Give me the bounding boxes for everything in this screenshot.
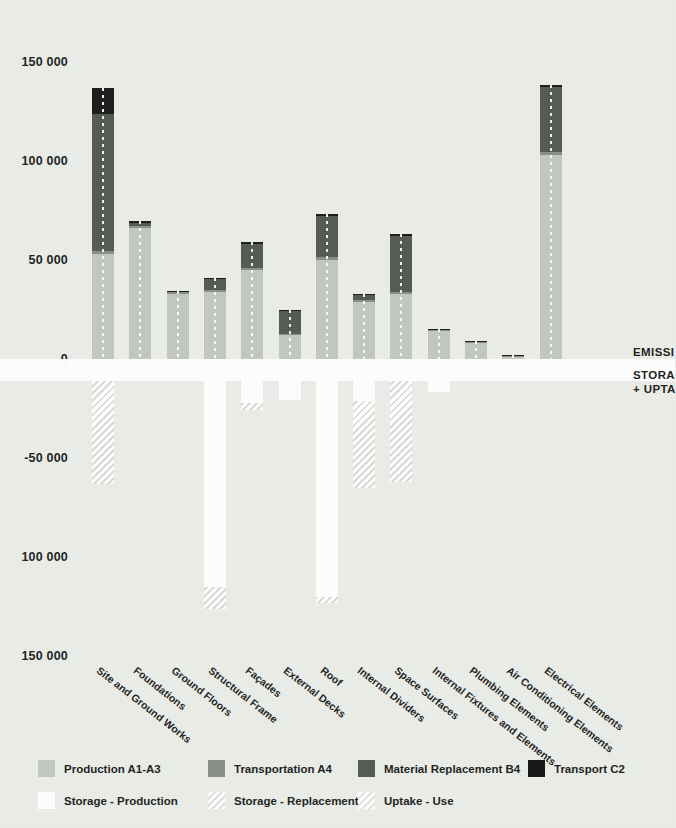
bar-center-dotted-guide — [400, 234, 402, 359]
bar-column[interactable] — [353, 0, 375, 680]
legend-label: Material Replacement B4 — [384, 763, 520, 775]
bar-column[interactable] — [279, 0, 301, 680]
legend-item[interactable]: Material Replacement B4 — [358, 760, 520, 777]
bar-segment-stprod — [241, 381, 263, 403]
bar-center-dotted-guide — [512, 355, 514, 359]
bar-center-dotted-guide — [363, 294, 365, 359]
bar-column[interactable] — [92, 0, 114, 680]
bar-center-dotted-guide — [177, 291, 179, 359]
legend-swatch-icon — [358, 760, 375, 777]
bar-segment-stprod — [316, 381, 338, 597]
bar-segment-strep — [390, 381, 412, 482]
side-annotation-emissions: EMISSI — [633, 346, 674, 358]
legend-label: Storage - Replacement — [234, 795, 359, 807]
bar-center-dotted-guide — [326, 214, 328, 359]
bar-segment-strep — [204, 587, 226, 609]
y-axis-tick-label: 150 000 — [0, 649, 68, 663]
y-axis-tick-label: -50 000 — [0, 451, 68, 465]
y-axis-tick-label: 50 000 — [0, 253, 68, 267]
bar-segment-strep — [241, 403, 263, 410]
bar-segment-stprod — [353, 381, 375, 401]
bar-center-dotted-guide — [438, 329, 440, 359]
bar-column[interactable] — [129, 0, 151, 680]
bar-center-dotted-guide — [214, 278, 216, 359]
legend-item[interactable]: Transportation A4 — [208, 760, 332, 777]
bar-column[interactable] — [241, 0, 263, 680]
legend-label: Transportation A4 — [234, 763, 332, 775]
legend-label: Production A1-A3 — [64, 763, 161, 775]
bar-segment-stprod — [428, 381, 450, 392]
bar-column[interactable] — [316, 0, 338, 680]
x-axis-tick-label: Roof — [318, 664, 344, 688]
bar-column[interactable] — [167, 0, 189, 680]
side-annotation-storage-line1: STORA — [633, 369, 675, 381]
legend-item[interactable]: Production A1-A3 — [38, 760, 161, 777]
legend-swatch-icon — [528, 760, 545, 777]
bar-center-dotted-guide — [550, 85, 552, 359]
bar-column[interactable] — [540, 0, 562, 680]
y-axis-tick-label: 150 000 — [0, 55, 68, 69]
bar-segment-stprod — [279, 381, 301, 400]
side-annotation-storage-line2: + UPTA — [633, 383, 676, 395]
y-axis-tick-label: 100 000 — [0, 154, 68, 168]
legend-item[interactable]: Transport C2 — [528, 760, 625, 777]
legend-label: Storage - Production — [64, 795, 178, 807]
bar-segment-strep — [316, 597, 338, 603]
legend-label: Transport C2 — [554, 763, 625, 775]
y-axis-tick-label: 100 000 — [0, 550, 68, 564]
legend-swatch-icon — [208, 792, 225, 809]
legend-swatch-icon — [358, 792, 375, 809]
legend-item[interactable]: Storage - Production — [38, 792, 178, 809]
legend-item[interactable]: Storage - Replacement — [208, 792, 359, 809]
legend-swatch-icon — [208, 760, 225, 777]
legend-swatch-icon — [38, 760, 55, 777]
chart-legend: Production A1-A3Transportation A4Materia… — [0, 752, 675, 828]
bar-center-dotted-guide — [251, 242, 253, 359]
bar-center-dotted-guide — [289, 310, 291, 359]
bar-segment-strep — [92, 381, 114, 484]
legend-swatch-icon — [38, 792, 55, 809]
bar-column[interactable] — [502, 0, 524, 680]
legend-item[interactable]: Uptake - Use — [358, 792, 454, 809]
bar-column[interactable] — [465, 0, 487, 680]
bar-column[interactable] — [204, 0, 226, 680]
legend-label: Uptake - Use — [384, 795, 454, 807]
bar-center-dotted-guide — [475, 341, 477, 359]
bar-center-dotted-guide — [139, 221, 141, 359]
bar-center-dotted-guide — [102, 88, 104, 359]
bar-segment-strep — [353, 401, 375, 488]
bar-column[interactable] — [428, 0, 450, 680]
bar-segment-stprod — [204, 381, 226, 587]
bar-column[interactable] — [390, 0, 412, 680]
